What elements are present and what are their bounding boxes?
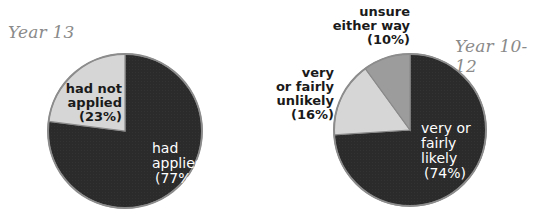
label-very-or-fairly-unlikely: very or fairly unlikely (16%): [262, 66, 334, 122]
label-very-or-fairly-likely: very or fairly likely (74%): [421, 121, 471, 181]
label-unsure-either-way: unsure either way (10%): [318, 5, 410, 47]
label-had-not-applied: had not applied (23%): [62, 82, 122, 124]
label-had-applied: had applied (77%): [152, 141, 204, 186]
